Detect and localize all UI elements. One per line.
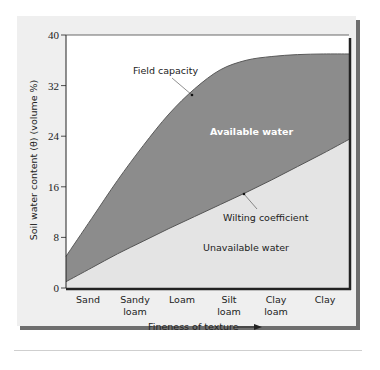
wilting-coefficient-marker: [243, 193, 246, 196]
card-shadow-right: [356, 20, 360, 330]
x-category-silt-loam-line2: loam: [217, 306, 241, 317]
x-category-silt-loam-line1: Silt: [221, 294, 236, 305]
y-tick-label: 0: [54, 282, 60, 294]
x-category-sandy-loam-line2: loam: [123, 306, 147, 317]
annotation-available-water: Available water: [210, 126, 294, 137]
y-tick-label: 40: [48, 29, 60, 41]
divider: [14, 350, 362, 351]
x-category-clay: Clay: [315, 294, 336, 305]
y-tick-label: 8: [54, 231, 60, 243]
x-category-loam: Loam: [169, 294, 195, 305]
y-axis-label: Soil water content (θ) (volume %): [28, 80, 39, 241]
x-category-sand: Sand: [76, 294, 100, 305]
annotation-unavailable-water: Unavailable water: [203, 242, 289, 253]
chart-figure: 0816243240 Soil water content (θ) (volum…: [0, 0, 380, 370]
x-category-clay-loam-line2: loam: [264, 306, 288, 317]
x-axis-label: Fineness of texture: [148, 321, 239, 332]
x-category-sandy-loam-line1: Sandy: [120, 294, 150, 305]
x-category-clay-loam-line1: Clay: [266, 294, 287, 305]
y-tick-label: 32: [48, 80, 59, 92]
annotation-wilting-coefficient: Wilting coefficient: [223, 212, 309, 223]
y-tick-label: 24: [48, 130, 60, 142]
field-capacity-marker: [191, 94, 194, 97]
y-tick-label: 16: [48, 181, 60, 193]
annotation-field-capacity: Field capacity: [133, 65, 198, 76]
